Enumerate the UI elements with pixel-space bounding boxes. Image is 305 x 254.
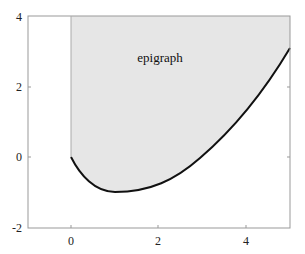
epigraph-chart: 4 2 0 -2 0 2 4 epigraph xyxy=(0,0,305,254)
y-tick-label: 4 xyxy=(16,10,22,24)
y-tick-label: -2 xyxy=(12,221,22,235)
epigraph-label: epigraph xyxy=(137,50,183,65)
x-tick-label: 0 xyxy=(68,234,74,248)
epigraph-region xyxy=(71,16,290,192)
x-tick-label: 2 xyxy=(155,234,161,248)
y-tick-label: 2 xyxy=(16,80,22,94)
x-tick-label: 4 xyxy=(243,234,249,248)
y-tick-label: 0 xyxy=(16,150,22,164)
